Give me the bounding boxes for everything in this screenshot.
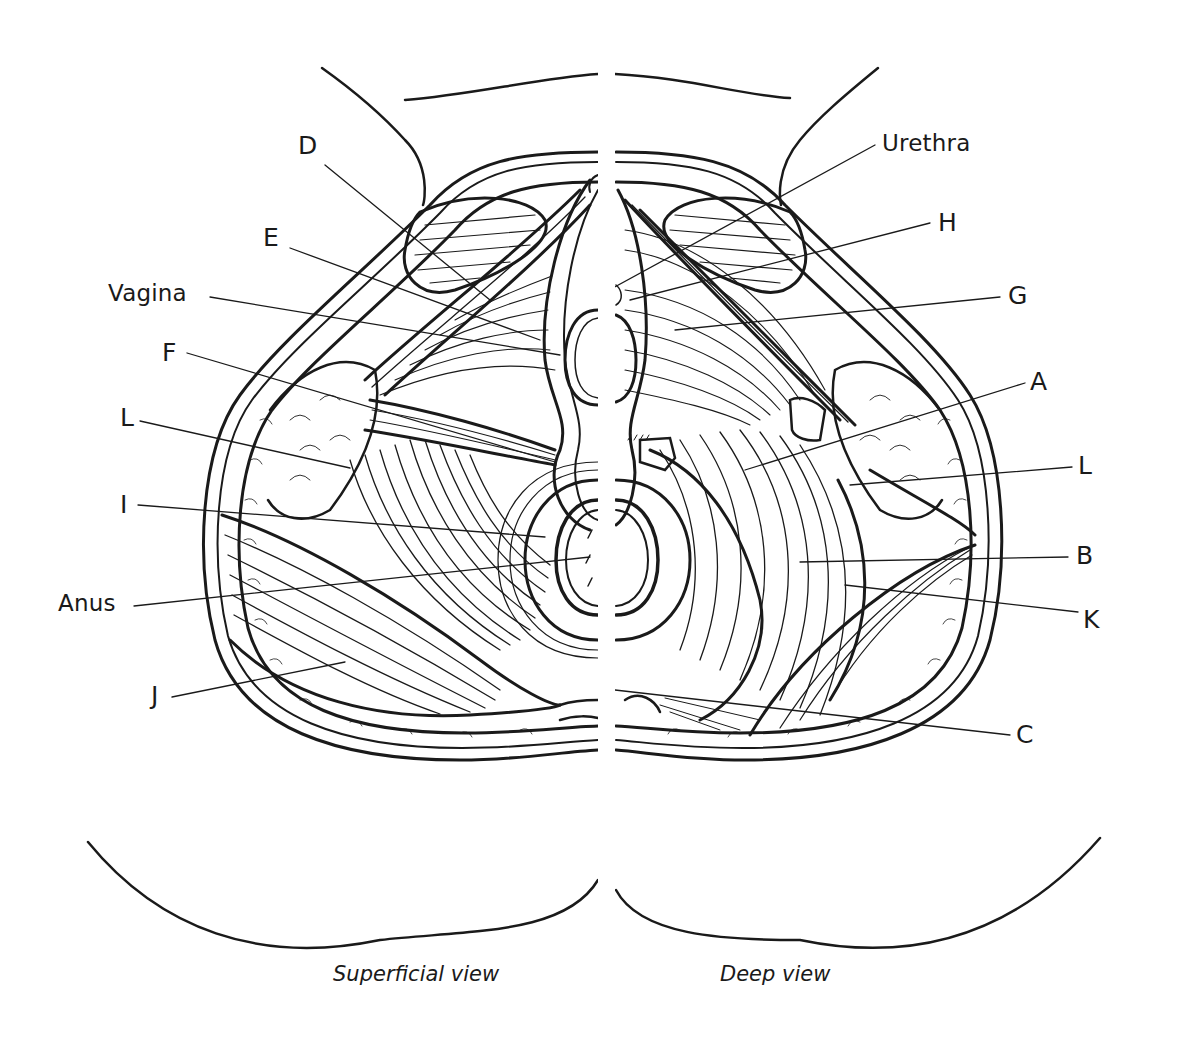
- label-h: H: [938, 210, 957, 235]
- label-b: B: [1076, 543, 1093, 568]
- label-i: I: [120, 492, 128, 517]
- caption-deep-view: Deep view: [720, 962, 830, 986]
- label-vagina: Vagina: [108, 282, 187, 305]
- label-l-right: L: [1078, 453, 1092, 478]
- perineum-muscle-diagram: [0, 0, 1181, 1047]
- label-j: J: [151, 683, 159, 708]
- caption-superficial-view: Superficial view: [333, 962, 499, 986]
- label-f: F: [162, 340, 177, 365]
- label-k: K: [1083, 607, 1100, 632]
- label-a: A: [1030, 369, 1047, 394]
- label-l-left: L: [120, 405, 134, 430]
- label-g: G: [1008, 283, 1028, 308]
- label-d: D: [298, 133, 317, 158]
- label-e: E: [263, 225, 279, 250]
- midline-gap: [598, 60, 615, 900]
- deep-view-half: [616, 152, 1002, 760]
- label-c: C: [1016, 722, 1034, 747]
- label-anus: Anus: [58, 592, 116, 615]
- label-urethra: Urethra: [882, 132, 970, 155]
